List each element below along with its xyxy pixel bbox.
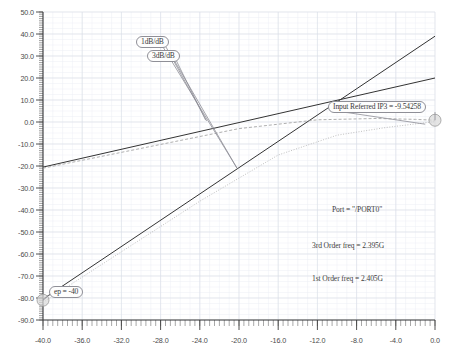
x-tick-label: -36.0 [65,336,99,345]
slope-3db-callout[interactable]: 3dB/dB [147,50,180,62]
x-tick-label: -16.0 [261,336,295,345]
y-axis-ticks [36,12,43,320]
ip3-plot-canvas [0,0,455,358]
y-tick-label: -70.0 [0,272,34,281]
slope-1db-callout[interactable]: 1dB/dB [136,36,169,48]
y-tick-label: -60.0 [0,250,34,259]
y-tick-label: -30.0 [0,184,34,193]
x-tick-label: -40.0 [26,336,60,345]
x-tick-label: -12.0 [300,336,334,345]
y-tick-label: -90.0 [0,316,34,325]
x-tick-label: -28.0 [144,336,178,345]
sweep-start-callout[interactable]: ep = -40 [49,286,83,298]
y-tick-label: -40.0 [0,206,34,215]
x-tick-label: -32.0 [104,336,138,345]
y-tick-label: -10.0 [0,140,34,149]
y-tick-label: 10.0 [0,96,34,105]
port-annotation: Port = "/PORT0" [332,205,382,214]
y-tick-label: 0.0 [0,118,34,127]
first-order-freq-annotation: 1st Order freq = 2.405G [312,274,383,283]
y-tick-label: -50.0 [0,228,34,237]
y-tick-label: 20.0 [0,74,34,83]
y-tick-label: 40.0 [0,30,34,39]
y-tick-label: 30.0 [0,52,34,61]
ip3-callout[interactable]: Input Referred IP3 = -9.54258 [328,101,426,113]
x-tick-label: -20.0 [222,336,256,345]
x-tick-label: -4.0 [379,336,413,345]
third-order-freq-annotation: 3rd Order freq = 2.395G [312,241,384,250]
x-tick-label: -24.0 [183,336,217,345]
y-tick-label: 50.0 [0,8,34,17]
x-tick-label: -8.0 [340,336,374,345]
y-tick-label: -80.0 [0,294,34,303]
x-tick-label: 0.0 [418,336,452,345]
chart-root: 50.040.030.020.010.00.0-10.0-20.0-30.0-4… [0,0,455,358]
y-tick-label: -20.0 [0,162,34,171]
x-axis-ticks [43,320,435,330]
